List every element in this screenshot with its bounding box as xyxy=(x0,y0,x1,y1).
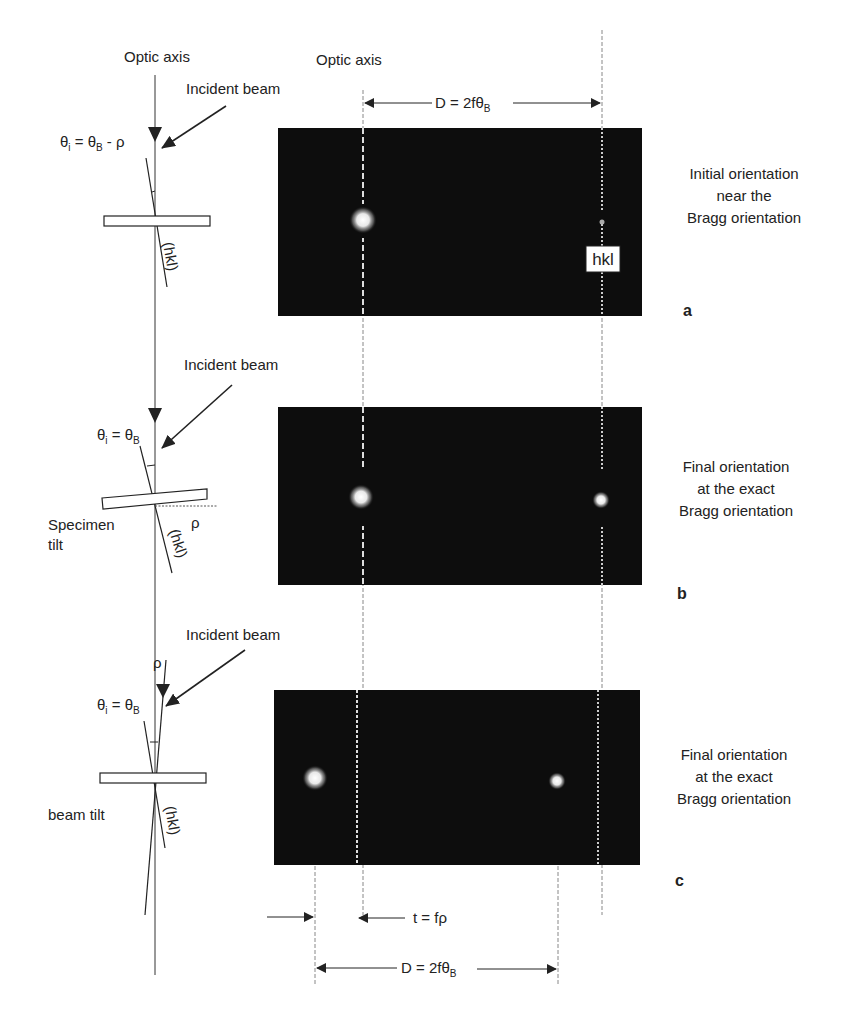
specimen-a xyxy=(104,216,210,226)
incident-beam-label-c: Incident beam xyxy=(186,626,280,643)
hkl-plane-line-b xyxy=(140,446,172,573)
beam-tilt-label: beam tilt xyxy=(48,806,106,823)
bottom-D-label: D = 2fθB xyxy=(401,959,457,979)
t-equation-label: t = fρ xyxy=(413,909,447,926)
hkl-spot-c xyxy=(548,772,566,790)
bottom-dimension-t: t = fρ xyxy=(267,909,447,926)
rho-label-c: ρ xyxy=(153,654,162,671)
svg-text:Bragg orientation: Bragg orientation xyxy=(677,790,791,807)
hkl-label-b: (hkl) xyxy=(166,527,191,560)
specimen-c xyxy=(100,773,206,783)
left-panel-b: Incident beam θi = θB ρ (hkl) Specimen t… xyxy=(48,356,278,573)
incident-beam-label-a: Incident beam xyxy=(186,80,280,97)
svg-text:Bragg orientation: Bragg orientation xyxy=(687,209,801,226)
direct-beam-spot-c xyxy=(302,765,328,791)
direct-beam-spot-b xyxy=(348,484,374,510)
hkl-spot-label: hkl xyxy=(592,250,614,269)
incident-beam-arrow-b xyxy=(162,385,232,448)
diffraction-pattern-b xyxy=(278,407,642,585)
rho-label-b: ρ xyxy=(191,514,200,531)
top-dimension-D: D = 2fθB xyxy=(365,94,600,114)
theta-eq-a: θi = θB - ρ xyxy=(60,133,125,153)
theta-eq-c: θi = θB xyxy=(97,696,140,716)
theta-eq-b: θi = θB xyxy=(97,426,140,446)
svg-text:at the exact: at the exact xyxy=(695,768,773,785)
left-optic-axis-label: Optic axis xyxy=(124,48,190,65)
hkl-spot-b xyxy=(592,491,610,509)
specimen-tilt-label-2: tilt xyxy=(48,536,64,553)
diffraction-pattern-c xyxy=(274,690,640,865)
top-D-label: D = 2fθB xyxy=(435,94,491,114)
caption-b: Final orientation at the exact Bragg ori… xyxy=(677,458,793,602)
incident-beam-arrow-a xyxy=(162,106,226,148)
bottom-dimension-D: D = 2fθB xyxy=(317,959,556,979)
svg-text:Final orientation: Final orientation xyxy=(681,746,788,763)
beam-arrow-icon xyxy=(148,127,162,142)
hkl-label-c: (hkl) xyxy=(162,805,184,837)
caption-a: Initial orientation near the Bragg orien… xyxy=(683,165,801,319)
beam-arrow-icon xyxy=(156,684,170,698)
panel-letter-c: c xyxy=(675,872,684,889)
panel-letter-b: b xyxy=(677,585,687,602)
specimen-tilt-label-1: Specimen xyxy=(48,516,115,533)
beam-arrow-icon xyxy=(148,408,162,423)
svg-text:Bragg orientation: Bragg orientation xyxy=(679,502,793,519)
svg-text:at the exact: at the exact xyxy=(697,480,775,497)
svg-text:Final orientation: Final orientation xyxy=(683,458,790,475)
direct-beam-spot-a xyxy=(349,206,377,234)
incident-beam-label-b: Incident beam xyxy=(184,356,278,373)
caption-c: Final orientation at the exact Bragg ori… xyxy=(675,746,791,889)
left-panel-c: Incident beam ρ θi = θB (hkl) beam tilt xyxy=(48,626,280,915)
hkl-spot-a xyxy=(600,220,605,225)
diffraction-figure: Optic axis Incident beam θi = θB - ρ (hk… xyxy=(0,0,855,1035)
incident-beam-arrow-c xyxy=(166,650,245,706)
svg-text:Initial orientation: Initial orientation xyxy=(689,165,798,182)
diffraction-pattern-a: hkl xyxy=(278,128,642,316)
left-panel-a: Optic axis Incident beam θi = θB - ρ (hk… xyxy=(60,48,280,287)
svg-text:near the: near the xyxy=(716,187,771,204)
panel-letter-a: a xyxy=(683,302,692,319)
right-optic-axis-label: Optic axis xyxy=(316,51,382,68)
